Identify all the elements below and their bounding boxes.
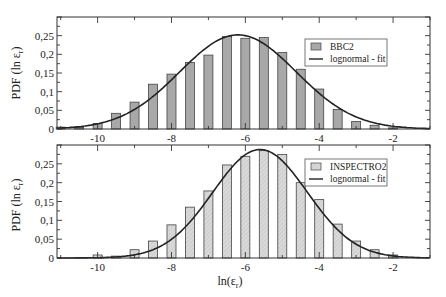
y-tick-label: 0,1: [40, 86, 54, 98]
bottom-legend: INSPECTRO2 lognormal - fit: [305, 159, 387, 186]
histogram-bar: [222, 165, 231, 258]
bottom-legend-line-label: lognormal - fit: [330, 174, 386, 184]
top-legend-line-label: lognormal - fit: [330, 54, 386, 64]
y-tick-label: 0,15: [35, 196, 55, 208]
top-legend: BBC2 lognormal - fit: [305, 39, 387, 66]
x-tick-label: -4: [315, 132, 325, 144]
bottom-y-tick-labels: 00,050,10,150,20,25: [35, 158, 55, 264]
y-tick-label: 0,1: [40, 214, 54, 226]
y-tick-label: 0,2: [40, 48, 54, 60]
histogram-bar: [333, 110, 342, 129]
y-tick-label: 0: [49, 252, 55, 264]
histogram-bar: [259, 38, 268, 129]
bottom-panel: -10-8-6-4-2 00,050,10,150,20,25 PDF (ln …: [9, 145, 430, 290]
histogram-bar: [112, 113, 121, 129]
figure: -10-8-6-4-2 00,050,10,150,20,25 PDF (ln …: [0, 0, 446, 297]
y-tick-label: 0,15: [35, 67, 55, 79]
histogram-bar: [222, 36, 231, 129]
histogram-bar: [259, 151, 268, 258]
y-tick-label: 0,05: [35, 104, 55, 116]
x-tick-label: -6: [241, 261, 251, 273]
x-tick-label: -6: [241, 132, 251, 144]
x-tick-label: -2: [388, 132, 397, 144]
bottom-x-tick-labels: -10-8-6-4-2: [90, 261, 397, 273]
histogram-bar: [185, 207, 194, 258]
histogram-bar: [185, 63, 194, 129]
y-tick-label: 0,25: [35, 158, 55, 170]
y-tick-label: 0,25: [35, 30, 55, 42]
histogram-bar: [278, 154, 287, 258]
histogram-bar: [241, 156, 250, 258]
x-tick-label: -8: [167, 132, 177, 144]
top-y-axis-title: PDF (ln εr): [9, 46, 25, 99]
histogram-bar: [278, 52, 287, 129]
x-tick-label: -4: [315, 261, 325, 273]
histogram-bar: [204, 55, 213, 129]
histogram-bar: [204, 191, 213, 258]
histogram-bar: [130, 102, 139, 129]
top-panel: -10-8-6-4-2 00,050,10,150,20,25 PDF (ln …: [9, 17, 430, 144]
top-legend-bar-swatch: [311, 43, 321, 50]
y-tick-label: 0: [49, 123, 55, 135]
x-tick-label: -10: [90, 132, 105, 144]
histogram-bar: [370, 125, 379, 129]
top-y-tick-labels: 00,050,10,150,20,25: [35, 30, 55, 135]
bottom-y-axis-title: PDF (ln εr): [9, 178, 25, 231]
y-tick-label: 0,2: [40, 177, 54, 189]
histogram-bar: [241, 38, 250, 129]
histogram-bar: [296, 69, 305, 129]
x-tick-label: -2: [388, 261, 397, 273]
x-tick-label: -10: [90, 261, 105, 273]
bottom-legend-bar-label: INSPECTRO2: [330, 162, 387, 172]
x-axis-title: ln(εr): [217, 274, 242, 290]
top-x-tick-labels: -10-8-6-4-2: [90, 132, 397, 144]
histogram-bar: [149, 84, 158, 129]
histogram-bar: [296, 183, 305, 258]
bottom-legend-bar-swatch: [311, 163, 321, 170]
chart-canvas: -10-8-6-4-2 00,050,10,150,20,25 PDF (ln …: [0, 0, 446, 297]
top-legend-bar-label: BBC2: [330, 42, 354, 52]
y-tick-label: 0,05: [35, 233, 55, 245]
x-tick-label: -8: [167, 261, 177, 273]
